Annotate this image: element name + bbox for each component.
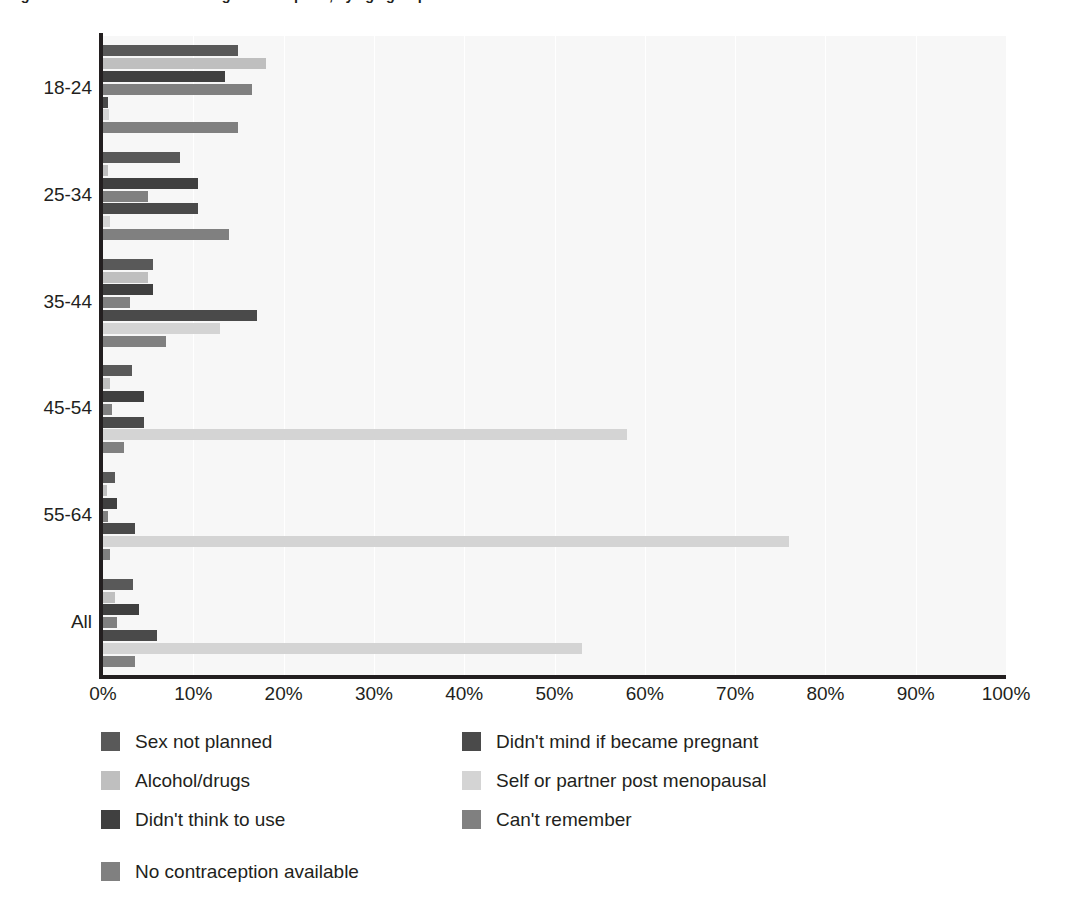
legend-swatch-alcohol-drugs xyxy=(101,771,120,790)
gridline-80 xyxy=(825,36,826,676)
bar xyxy=(103,391,144,402)
bar xyxy=(103,442,124,453)
y-axis-label-35-44: 35-44 xyxy=(2,291,92,313)
y-axis-label-All: All xyxy=(2,611,92,633)
bar xyxy=(103,417,144,428)
bar-fill xyxy=(103,391,144,402)
bar xyxy=(103,485,107,496)
bar xyxy=(103,592,115,603)
bar-fill xyxy=(103,97,108,108)
bar xyxy=(103,472,115,483)
plot-area xyxy=(103,36,1006,676)
bar-fill xyxy=(103,109,109,120)
bar-fill xyxy=(103,656,135,667)
legend-column-extra: No contraception available xyxy=(101,852,359,891)
bar-fill xyxy=(103,417,144,428)
bar-fill xyxy=(103,365,132,376)
bar-fill xyxy=(103,442,124,453)
bar xyxy=(103,84,252,95)
bar-fill xyxy=(103,178,198,189)
bar xyxy=(103,378,110,389)
gridline-100 xyxy=(1006,36,1007,676)
legend-item-post-menopausal[interactable]: Self or partner post menopausal xyxy=(462,761,766,800)
y-axis-labels: 18-2425-3435-4445-5455-64All xyxy=(0,0,92,700)
legend-swatch-didnt-mind-pregnant xyxy=(462,732,481,751)
bar-fill xyxy=(103,165,108,176)
gridline-60 xyxy=(645,36,646,676)
bar xyxy=(103,191,148,202)
legend-column-right: Didn't mind if became pregnantSelf or pa… xyxy=(462,722,766,839)
x-axis-tick-10pct: 10% xyxy=(174,683,212,705)
bar xyxy=(103,152,180,163)
bar xyxy=(103,429,627,440)
bar-fill xyxy=(103,272,148,283)
x-axis-tick-30pct: 30% xyxy=(355,683,393,705)
bar xyxy=(103,297,130,308)
bar-fill xyxy=(103,152,180,163)
bar-fill xyxy=(103,259,153,270)
legend-column-left: Sex not plannedAlcohol/drugsDidn't think… xyxy=(101,722,285,839)
gridline-90 xyxy=(916,36,917,676)
bar xyxy=(103,656,135,667)
bar xyxy=(103,203,198,214)
bar xyxy=(103,216,110,227)
bar-fill xyxy=(103,592,115,603)
x-axis-tick-0pct: 0% xyxy=(89,683,116,705)
gridline-70 xyxy=(735,36,736,676)
bar xyxy=(103,498,117,509)
legend-item-sex-not-planned[interactable]: Sex not planned xyxy=(101,722,285,761)
legend-label-alcohol-drugs: Alcohol/drugs xyxy=(135,770,250,792)
legend-swatch-post-menopausal xyxy=(462,771,481,790)
bar-fill xyxy=(103,297,130,308)
bar xyxy=(103,536,789,547)
bar-fill xyxy=(103,630,157,641)
bar xyxy=(103,71,225,82)
bar-fill xyxy=(103,429,627,440)
bar xyxy=(103,643,582,654)
legend-swatch-no-contraception-available xyxy=(101,862,120,881)
legend-item-didnt-think-to-use[interactable]: Didn't think to use xyxy=(101,800,285,839)
bar-fill xyxy=(103,579,133,590)
bar-fill xyxy=(103,536,789,547)
bar-fill xyxy=(103,284,153,295)
legend-item-cant-remember[interactable]: Can't remember xyxy=(462,800,766,839)
bar-fill xyxy=(103,604,139,615)
y-axis-label-55-64: 55-64 xyxy=(2,504,92,526)
bar-fill xyxy=(103,511,108,522)
legend-swatch-cant-remember xyxy=(462,810,481,829)
bar xyxy=(103,165,108,176)
legend-label-post-menopausal: Self or partner post menopausal xyxy=(496,770,766,792)
bar-fill xyxy=(103,310,257,321)
bar-fill xyxy=(103,523,135,534)
bar xyxy=(103,617,117,628)
x-axis-tick-50pct: 50% xyxy=(535,683,573,705)
x-axis-tick-100pct: 100% xyxy=(982,683,1031,705)
bar-fill xyxy=(103,45,238,56)
bar-fill xyxy=(103,323,220,334)
bar xyxy=(103,404,112,415)
legend-item-didnt-mind-pregnant[interactable]: Didn't mind if became pregnant xyxy=(462,722,766,761)
bar xyxy=(103,323,220,334)
bar xyxy=(103,604,139,615)
bar-fill xyxy=(103,229,229,240)
bar-fill xyxy=(103,336,166,347)
x-axis-labels: 0%10%20%30%40%50%60%70%80%90%100% xyxy=(0,683,1079,713)
chart-plot-wrapper: 18-2425-3435-4445-5455-64All 0%10%20%30%… xyxy=(0,0,1079,700)
bar-fill xyxy=(103,404,112,415)
legend-item-no-contraception-available[interactable]: No contraception available xyxy=(101,852,359,891)
x-axis-tick-40pct: 40% xyxy=(445,683,483,705)
x-axis-tick-90pct: 90% xyxy=(897,683,935,705)
bar xyxy=(103,310,257,321)
y-axis-label-18-24: 18-24 xyxy=(2,77,92,99)
bar xyxy=(103,58,266,69)
legend-label-no-contraception-available: No contraception available xyxy=(135,861,359,883)
legend-label-didnt-mind-pregnant: Didn't mind if became pregnant xyxy=(496,731,758,753)
bar xyxy=(103,45,238,56)
bar-fill xyxy=(103,498,117,509)
bar-fill xyxy=(103,58,266,69)
bar-fill xyxy=(103,203,198,214)
gridline-50 xyxy=(555,36,556,676)
legend-item-alcohol-drugs[interactable]: Alcohol/drugs xyxy=(101,761,285,800)
x-axis-tick-60pct: 60% xyxy=(626,683,664,705)
y-axis-label-25-34: 25-34 xyxy=(2,184,92,206)
